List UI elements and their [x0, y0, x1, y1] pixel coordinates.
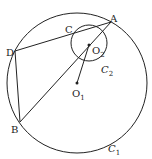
geometry-diagram: A C D B O2 O1 C2 C1: [0, 0, 152, 159]
label-b: B: [11, 124, 18, 135]
label-c: C: [65, 24, 73, 35]
diagram-canvas: A C D B O2 O1 C2 C1: [0, 0, 152, 159]
label-a: A: [109, 13, 118, 24]
segment-db: [15, 51, 20, 122]
label-c1: C1: [108, 143, 120, 157]
segment-o1o2: [77, 45, 89, 83]
label-o2: O2: [92, 45, 105, 59]
point-o2-dot: [88, 44, 91, 47]
label-c2: C2: [101, 64, 113, 78]
label-o1: O1: [72, 88, 85, 102]
segment-ba: [20, 22, 111, 122]
point-o1-dot: [76, 82, 79, 85]
label-d: D: [6, 47, 14, 58]
